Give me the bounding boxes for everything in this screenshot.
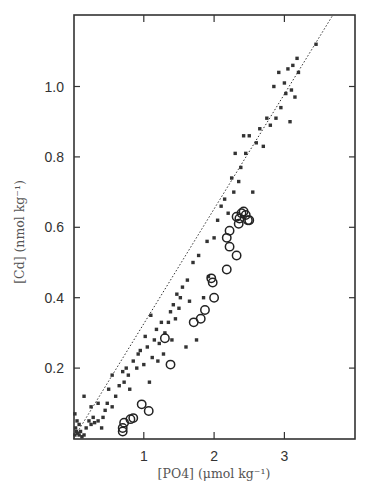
square-marker [184,345,187,348]
square-marker [87,419,90,422]
square-marker [106,402,109,405]
square-marker [91,416,94,419]
square-marker [175,292,178,295]
square-marker [188,300,191,303]
plot-frame [74,15,355,439]
square-marker [202,296,205,299]
square-marker [139,349,142,352]
square-marker [170,338,173,341]
square-marker [186,278,189,281]
open-circle-marker [161,334,169,342]
square-marker [117,384,120,387]
square-marker [179,296,182,299]
square-marker [279,106,282,109]
square-marker [135,366,138,369]
square-marker [160,321,163,324]
axis-ticks [74,15,355,439]
square-marker [262,145,265,148]
scatter-chart: 1230.20.40.60.81.0 [PO4] (μmol kg⁻¹) [Cd… [0,0,372,496]
open-circle-marker [210,294,218,302]
square-marker [155,328,158,331]
square-marker [136,352,139,355]
square-marker [174,317,177,320]
square-marker [84,426,87,429]
open-circle-marker [225,242,233,250]
square-marker [96,402,99,405]
square-marker [89,405,92,408]
y-tick-label: 0.6 [45,219,65,235]
square-marker [248,134,251,137]
square-marker [212,236,215,239]
square-marker [107,388,110,391]
square-marker [101,416,104,419]
square-marker [205,240,208,243]
square-marker [73,412,76,415]
y-axis-title: [Cd] (nmol kg⁻¹) [12,180,27,284]
x-axis-title: [PO4] (μmol kg⁻¹) [158,466,271,481]
axis-tick-labels: 1230.20.40.60.81.0 [45,79,289,465]
filled-square-markers [73,43,318,439]
square-marker [284,92,287,95]
square-marker [169,310,172,313]
square-marker [277,71,280,74]
square-marker [110,405,113,408]
square-marker [230,176,233,179]
y-tick-label: 0.4 [45,290,65,306]
square-marker [103,409,106,412]
open-circle-marker [225,227,233,235]
square-marker [128,388,131,391]
square-marker [82,395,85,398]
square-marker [258,127,261,130]
square-marker [177,307,180,310]
square-marker [272,85,275,88]
square-marker [226,212,229,215]
x-tick-label: 1 [140,448,148,464]
square-marker [153,338,156,341]
square-marker [255,141,258,144]
square-marker [269,124,272,127]
open-circle-marker [137,400,145,408]
open-circle-marker [201,306,209,314]
square-marker [122,380,125,383]
open-circle-markers [119,207,254,435]
square-marker [172,303,175,306]
square-marker [77,423,80,426]
square-marker [156,359,159,362]
square-marker [265,116,268,119]
square-marker [195,338,198,341]
square-marker [288,120,291,123]
square-marker [219,204,222,207]
open-circle-marker [232,251,240,259]
square-marker [291,64,294,67]
square-marker [237,180,240,183]
square-marker [121,370,124,373]
square-marker [223,197,226,200]
square-marker [297,71,300,74]
y-tick-label: 1.0 [45,79,65,95]
square-marker [89,423,92,426]
square-marker [93,421,96,424]
square-marker [232,190,235,193]
square-marker [197,254,200,257]
x-tick-label: 3 [281,448,289,464]
square-marker [274,116,277,119]
square-marker [74,426,77,429]
square-marker [162,352,165,355]
square-marker [100,426,103,429]
square-marker [233,152,236,155]
square-marker [242,134,245,137]
square-marker [110,373,113,376]
y-tick-label: 0.8 [45,149,65,165]
y-tick-label: 0.2 [45,360,65,376]
square-marker [239,166,242,169]
square-marker [114,395,117,398]
square-marker [146,345,149,348]
square-marker [149,314,152,317]
square-marker [158,342,161,345]
square-marker [75,419,78,422]
square-marker [96,419,99,422]
square-marker [125,366,128,369]
square-marker [216,219,219,222]
square-marker [191,261,194,264]
square-marker [151,356,154,359]
